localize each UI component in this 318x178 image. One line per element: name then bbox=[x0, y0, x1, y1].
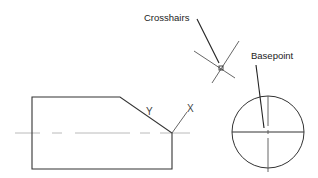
crosshairs-icon bbox=[194, 41, 239, 83]
x-axis-label: X bbox=[187, 103, 194, 114]
cad-diagram: X Y Crosshairs Basepoint bbox=[0, 0, 318, 178]
crosshairs-leader bbox=[197, 19, 219, 63]
y-axis-label: Y bbox=[146, 106, 153, 117]
crosshairs-label: Crosshairs bbox=[144, 12, 190, 23]
basepoint-label: Basepoint bbox=[251, 50, 294, 61]
x-axis-line bbox=[172, 112, 187, 133]
